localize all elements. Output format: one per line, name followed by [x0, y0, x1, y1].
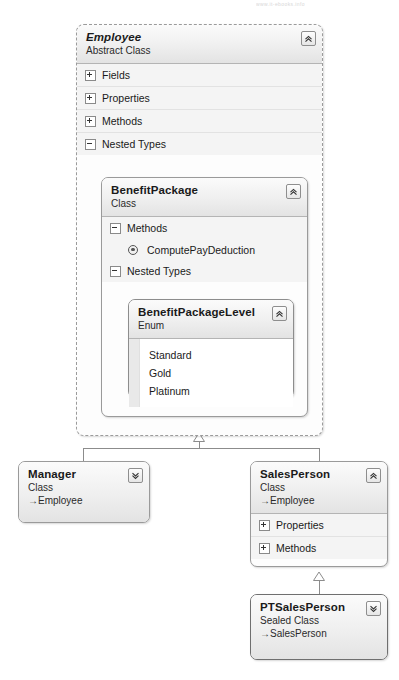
class-header-ptsalesperson: PTSalesPerson Sealed Class →SalesPerson: [251, 595, 387, 659]
expander-minus-icon[interactable]: [110, 266, 121, 277]
base-name: SalesPerson: [270, 628, 327, 639]
section-label: Methods: [127, 222, 167, 234]
diagram-canvas: www.it-ebooks.info Employee Abstract Cla…: [0, 0, 399, 680]
enum-kind-benefitpackagelevel: Enum: [138, 319, 269, 332]
class-kind-salesperson: Class: [260, 481, 363, 494]
class-kind-employee: Abstract Class: [86, 44, 298, 57]
class-kind-manager: Class: [28, 481, 125, 494]
class-base-manager: →Employee: [28, 494, 125, 507]
inheritance-arrow-icon: →: [260, 494, 270, 507]
section-label: Fields: [102, 69, 130, 81]
class-box-benefitpackage[interactable]: BenefitPackage Class Methods ComputePayD…: [101, 177, 308, 417]
enum-value[interactable]: Platinum: [129, 382, 293, 400]
section-row-nested-types[interactable]: Nested Types: [77, 133, 322, 155]
compartment-list-salesperson: Properties Methods: [251, 514, 387, 559]
section-label: Properties: [276, 519, 324, 531]
class-box-manager[interactable]: Manager Class →Employee: [18, 461, 150, 523]
class-name-manager: Manager: [28, 468, 125, 481]
section-row-properties[interactable]: Properties: [251, 514, 387, 537]
section-row-methods[interactable]: Methods: [102, 217, 307, 239]
section-row-fields[interactable]: Fields: [77, 64, 322, 87]
member-label: ComputePayDeduction: [147, 244, 255, 256]
connector-salesperson-drop: [319, 448, 320, 462]
class-header-benefitpackage: BenefitPackage Class: [102, 178, 307, 217]
class-kind-ptsalesperson: Sealed Class: [260, 614, 363, 627]
enum-value[interactable]: Standard: [129, 346, 293, 364]
connector-manager-drop: [83, 448, 84, 462]
chevron-double-down-icon[interactable]: [366, 601, 381, 616]
member-row-computepaydeduction[interactable]: ComputePayDeduction: [102, 239, 307, 260]
expander-plus-icon[interactable]: [85, 70, 96, 81]
base-name: Employee: [270, 495, 314, 506]
class-name-benefitpackage: BenefitPackage: [111, 184, 283, 197]
expander-minus-icon[interactable]: [85, 139, 96, 150]
enum-value[interactable]: Gold: [129, 364, 293, 382]
section-label: Methods: [276, 542, 316, 554]
expander-plus-icon[interactable]: [85, 116, 96, 127]
class-header-salesperson: SalesPerson Class →Employee: [251, 462, 387, 514]
inheritance-arrowhead-salesperson: [313, 567, 325, 576]
class-kind-benefitpackage: Class: [111, 197, 283, 210]
compartment-list-employee: Fields Properties Methods Nested Types: [77, 64, 322, 155]
method-icon: [128, 245, 138, 255]
connector-employee-bus: [83, 448, 320, 449]
enum-value-list: Standard Gold Platinum: [129, 339, 293, 407]
compartment-list-benefitpackage: Methods ComputePayDeduction Nested Types: [102, 217, 307, 282]
class-name-employee: Employee: [86, 31, 298, 44]
class-base-ptsalesperson: →SalesPerson: [260, 627, 363, 640]
class-box-employee[interactable]: Employee Abstract Class Fields Propertie…: [76, 24, 323, 436]
expander-plus-icon[interactable]: [259, 520, 270, 531]
class-header-manager: Manager Class →Employee: [19, 462, 149, 522]
section-label: Properties: [102, 92, 150, 104]
chevron-double-down-icon[interactable]: [128, 468, 143, 483]
class-box-salesperson[interactable]: SalesPerson Class →Employee Properties M…: [250, 461, 388, 567]
class-box-ptsalesperson[interactable]: PTSalesPerson Sealed Class →SalesPerson: [250, 594, 388, 660]
section-row-methods[interactable]: Methods: [77, 110, 322, 133]
chevron-double-up-icon[interactable]: [301, 31, 316, 46]
expander-plus-icon[interactable]: [85, 93, 96, 104]
expander-plus-icon[interactable]: [259, 543, 270, 554]
watermark-text: www.it-ebooks.info: [256, 1, 396, 8]
enum-header-benefitpackagelevel: BenefitPackageLevel Enum: [129, 300, 293, 339]
class-name-salesperson: SalesPerson: [260, 468, 363, 481]
enum-box-benefitpackagelevel[interactable]: BenefitPackageLevel Enum Standard Gold P…: [128, 299, 294, 398]
section-row-methods[interactable]: Methods: [251, 537, 387, 559]
chevron-double-up-icon[interactable]: [272, 306, 287, 321]
enum-name-benefitpackagelevel: BenefitPackageLevel: [138, 306, 269, 319]
base-name: Employee: [38, 495, 82, 506]
inheritance-arrow-icon: →: [260, 627, 270, 640]
chevron-double-up-icon[interactable]: [286, 184, 301, 199]
expander-minus-icon[interactable]: [110, 223, 121, 234]
class-header-employee: Employee Abstract Class: [77, 25, 322, 64]
chevron-double-up-icon[interactable]: [366, 468, 381, 483]
class-name-ptsalesperson: PTSalesPerson: [260, 601, 363, 614]
section-label: Nested Types: [102, 138, 166, 150]
class-base-salesperson: →Employee: [260, 494, 363, 507]
section-row-nested-types[interactable]: Nested Types: [102, 260, 307, 282]
section-label: Nested Types: [127, 265, 191, 277]
inheritance-arrow-icon: →: [28, 494, 38, 507]
section-row-properties[interactable]: Properties: [77, 87, 322, 110]
section-label: Methods: [102, 115, 142, 127]
